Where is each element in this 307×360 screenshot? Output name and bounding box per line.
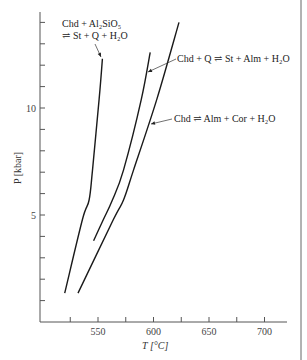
annotation-leaders [95,44,176,125]
arrowhead-icon [151,121,155,125]
phase-diagram-chart: 550600650700510 Chd + Al₂SiO₅ ⇌ St + Q +… [0,0,307,360]
y-axis-label: P [kbar] [12,152,23,184]
x-axis-label: T [°C] [142,340,168,351]
x-tick-label: 550 [91,326,106,337]
x-tick-label: 700 [257,326,272,337]
y-tick-label: 5 [31,210,36,221]
annotation-reaction-1-line2: ⇌ St + Q + H₂O [62,30,128,41]
x-tick-label: 600 [146,326,161,337]
curve-chd-al2sio5 [65,59,103,293]
x-tick-label: 650 [202,326,217,337]
y-tick-label: 10 [26,103,36,114]
annotation-reaction-2: Chd + Q ⇌ St + Alm + H₂O [177,53,290,64]
annotation-reaction-3: Chd ⇌ Alm + Cor + H₂O [174,113,275,124]
reaction-curves [65,22,179,293]
leader-line-2 [148,59,176,72]
annotation-reaction-1-line1: Chd + Al₂SiO₅ [62,18,121,29]
